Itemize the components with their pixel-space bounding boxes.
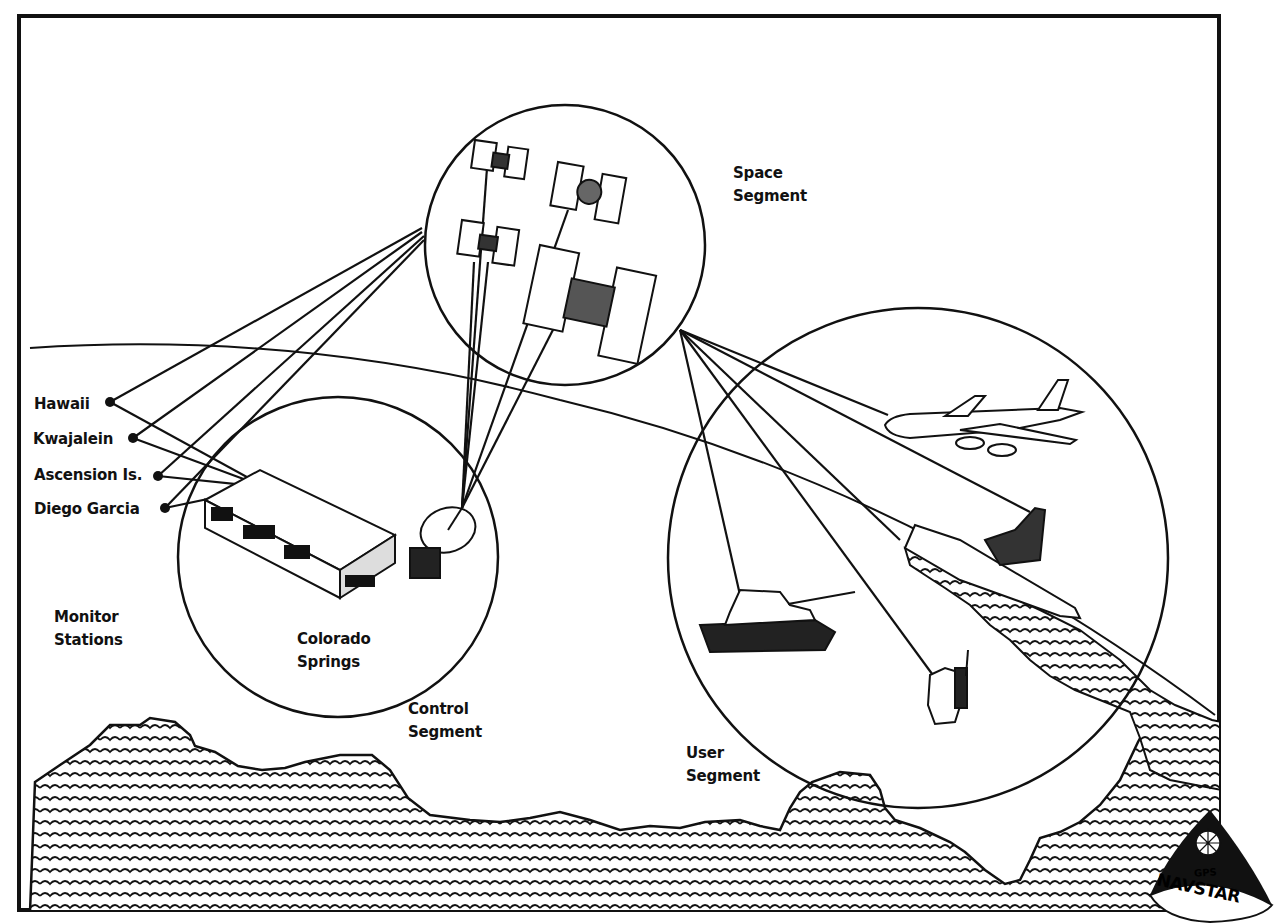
station-label-diego-garcia: Diego Garcia xyxy=(34,498,140,521)
monitor-stations-heading: Monitor Stations xyxy=(54,606,123,652)
space-segment-label: Space Segment xyxy=(733,162,807,208)
gps-segments-diagram xyxy=(0,0,1278,924)
station-dot-ascension xyxy=(153,471,163,481)
station-label-kwajalein: Kwajalein xyxy=(33,428,113,451)
station-dot-diego-garcia xyxy=(160,503,170,513)
user-segment-label: User Segment xyxy=(686,742,760,788)
master-station-label: Colorado Springs xyxy=(297,628,371,674)
control-segment-label: Control Segment xyxy=(408,698,482,744)
station-dot-kwajalein xyxy=(128,433,138,443)
station-label-hawaii: Hawaii xyxy=(34,393,90,416)
station-dot-hawaii xyxy=(105,397,115,407)
station-label-ascension: Ascension Is. xyxy=(34,464,142,487)
